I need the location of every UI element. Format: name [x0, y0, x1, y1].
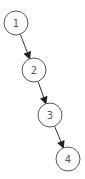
edge-1-to-2: [20, 34, 29, 59]
nodes: 1234: [4, 11, 80, 171]
edges: [20, 34, 63, 148]
node-label: 4: [65, 154, 71, 165]
node-1: 1: [4, 11, 28, 35]
node-2: 2: [22, 58, 46, 82]
node-3: 3: [38, 103, 62, 127]
tree-diagram: 1234: [0, 0, 85, 179]
edge-2-to-3: [38, 81, 46, 103]
node-label: 2: [31, 65, 37, 76]
node-label: 3: [47, 110, 53, 121]
edge-3-to-4: [55, 126, 64, 148]
node-4: 4: [56, 147, 80, 171]
node-label: 1: [13, 18, 19, 29]
